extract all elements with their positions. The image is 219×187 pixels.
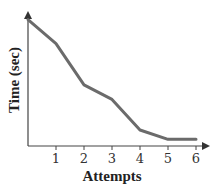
- x-tick-label: 1: [52, 151, 60, 166]
- line-chart: 123456 Attempts Time (sec): [0, 0, 219, 187]
- axes: [28, 15, 206, 146]
- x-tick-label: 5: [164, 151, 172, 166]
- x-tick-label: 6: [192, 151, 200, 166]
- series-line-time: [28, 20, 196, 140]
- x-axis-label: Attempts: [82, 168, 141, 184]
- y-axis-label: Time (sec): [6, 47, 23, 113]
- x-tick-label: 3: [108, 151, 116, 166]
- x-tick-label: 4: [136, 151, 144, 166]
- x-tick-label: 2: [80, 151, 88, 166]
- x-tick-labels: 123456: [52, 151, 200, 166]
